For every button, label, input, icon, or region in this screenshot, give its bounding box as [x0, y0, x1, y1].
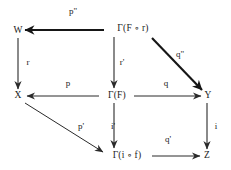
edge-label-r: r: [27, 58, 30, 67]
edge-label-i: i: [215, 122, 218, 131]
edge-label-p-double-prime: p": [69, 7, 77, 16]
node-x: X: [14, 91, 21, 101]
edge-q-double-prime: [152, 38, 202, 90]
edge-label-q-double-prime: q": [176, 50, 184, 59]
node-y: Y: [204, 91, 211, 101]
edge-label-p-prime: p': [78, 122, 84, 131]
node-w: W: [13, 26, 22, 36]
edge-label-r-prime: r': [120, 58, 125, 67]
edge-label-q: q: [164, 79, 169, 88]
node-gamma-f: Γ(F): [108, 91, 126, 101]
node-gamma-i-compose-f: Γ(i ∘ f): [113, 151, 142, 161]
edge-label-p: p: [66, 79, 71, 88]
commutative-diagram: W Γ(F ∘ r) X Γ(F) Y Γ(i ∘ f) Z p" q" r r…: [0, 0, 231, 170]
edge-p-prime: [25, 103, 103, 152]
node-z: Z: [204, 151, 210, 161]
edge-label-q-prime: q': [165, 135, 171, 144]
edge-label-i-prime: i': [111, 122, 115, 131]
node-gamma-f-compose-r: Γ(F ∘ r): [117, 24, 148, 34]
arrow-layer: [0, 0, 231, 170]
